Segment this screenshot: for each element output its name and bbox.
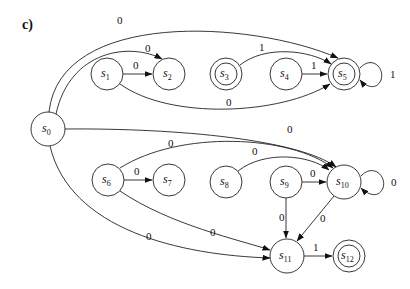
state-s1: s1 [91,58,123,90]
edge-label: 0 [287,123,293,135]
edge-label: 0 [391,176,397,188]
edge-label: 0 [252,145,258,157]
edge-arrow [65,129,336,167]
edges: 000011100000000001 [49,14,397,258]
state-s2: s2 [153,58,185,90]
edge-label: 0 [117,14,123,26]
state-s3: s3 [210,58,242,90]
edge-label: 0 [145,42,151,54]
state-s9: s9 [270,166,302,198]
edge-label: 1 [311,59,317,71]
edge-s11-s12: 1 [304,241,332,256]
edge-label: 0 [226,96,232,108]
edge-arrow [120,191,270,250]
state-s4: s4 [270,58,302,90]
state-s11: s11 [270,239,304,273]
edge-arrow [361,171,384,195]
edge-s10-s10: 0 [361,171,397,195]
state-s7: s7 [153,164,185,196]
state-s10: s10 [327,165,361,199]
edge-s6-s11: 0 [120,191,270,250]
edge-s0-s11: 0 [50,146,270,258]
edge-label: 0 [168,137,174,149]
state-diagram: c) 000011100000000001 s0s1s2s3s4s5s6s7s8… [0,0,410,289]
edge-label: 0 [279,211,285,223]
edge-label: 0 [320,212,326,224]
state-s5: s5 [328,58,360,90]
edge-s9-s11: 0 [279,198,286,238]
edge-label: 1 [313,241,319,253]
state-s6: s6 [92,164,124,196]
edge-s6-s7: 0 [124,165,152,180]
edge-s1-s2: 0 [123,59,152,74]
edge-label: 1 [390,68,396,80]
edge-s4-s5: 1 [302,59,327,74]
edge-label: 0 [210,226,216,238]
edge-s5-s5: 1 [360,63,396,87]
state-s0: s0 [31,112,65,146]
edge-arrow [50,146,270,258]
edge-s10-s11: 0 [297,196,334,241]
edge-arrow [297,196,334,241]
panel-label: c) [22,17,33,33]
edge-label: 0 [310,167,316,179]
edge-label: 1 [259,41,265,53]
edge-arrow [120,141,333,168]
edge-s6-s10: 0 [120,137,333,168]
edge-label: 0 [134,165,140,177]
edge-label: 0 [146,230,152,242]
edge-s9-s10: 0 [302,167,326,182]
state-s8: s8 [210,166,242,198]
state-s12: s12 [333,240,365,272]
edge-arrow [360,63,382,87]
edge-s0-s10: 0 [65,123,336,167]
edge-label: 0 [133,59,139,71]
